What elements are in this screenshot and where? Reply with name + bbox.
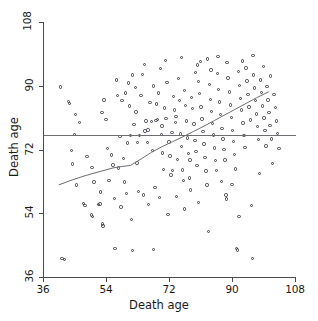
x-tick-label: 72 [149,283,189,295]
y-tick [39,86,43,87]
y-tick [39,277,43,278]
x-tick-label: 36 [23,283,63,295]
x-tick [295,278,296,282]
y-axis-line [43,22,44,278]
y-tick-label: 36 [0,270,36,282]
y-tick-label: 54 [0,206,36,218]
plot-area [43,22,295,277]
scatter-plot-figure: 36547290108 36547290108 Death age Death … [0,0,318,321]
y-tick [39,213,43,214]
y-tick [39,150,43,151]
x-tick [43,278,44,282]
x-tick [232,278,233,282]
lowess-trend-line [43,22,295,277]
x-tick [169,278,170,282]
x-tick [106,278,107,282]
y-axis-title: Death age [7,97,21,197]
y-tick-label: 108 [0,15,36,27]
x-tick-label: 54 [86,283,126,295]
x-axis-title: Death age [0,298,318,312]
x-tick-label: 108 [275,283,315,295]
x-tick-label: 90 [212,283,252,295]
y-tick [39,22,43,23]
y-tick-label: 90 [0,79,36,91]
